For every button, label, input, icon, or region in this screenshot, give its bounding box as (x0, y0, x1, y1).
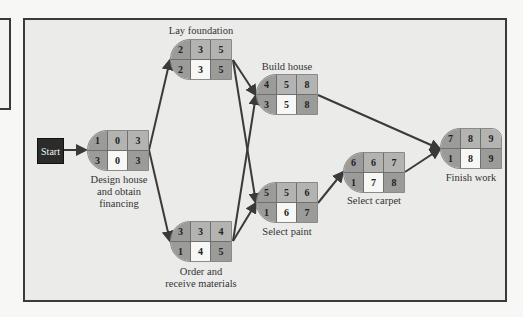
node-lf-cell: 5 (211, 60, 231, 80)
node-ls-cell: 4 (191, 242, 211, 262)
node-label-order-materials: Order and receive materials (156, 266, 246, 290)
node-build-house: 4 5 8 3 5 8 (256, 74, 318, 115)
node-finish-work: 7 8 9 1 8 9 (440, 128, 502, 169)
label-line: receive materials (156, 278, 246, 290)
edge-build-finish (318, 95, 440, 149)
node-duration-cell: 6 (364, 153, 384, 173)
start-node: Start (37, 138, 64, 164)
node-duration-cell: 3 (191, 222, 211, 242)
edge-order-build (233, 95, 256, 241)
node-ls-cell: 3 (191, 60, 211, 80)
node-ef-cell: 5 (211, 40, 231, 60)
node-ef-cell: 9 (481, 129, 501, 149)
edge-design-foundation (149, 60, 170, 150)
edge-carpet-finish (405, 149, 440, 172)
label-line: Order and (156, 266, 246, 278)
node-lf-cell: 3 (128, 151, 148, 171)
node-label-select-carpet: Select carpet (337, 195, 411, 207)
node-duration-cell: 5 (277, 183, 297, 203)
node-ls-cell: 8 (461, 149, 481, 169)
node-duration-cell: 0 (108, 131, 128, 151)
node-ef-cell: 6 (297, 183, 317, 203)
node-lf-cell: 5 (211, 242, 231, 262)
node-ls-cell: 7 (364, 173, 384, 193)
node-duration-cell: 3 (191, 40, 211, 60)
node-label-finish-work: Finish work (434, 172, 508, 184)
node-design-house: 1 0 3 3 0 3 (87, 130, 149, 171)
label-line: Design house (83, 174, 155, 186)
node-lf-cell: 9 (481, 149, 501, 169)
node-label-build-house: Build house (250, 61, 324, 73)
node-ef-cell: 3 (128, 131, 148, 151)
node-ls-cell: 0 (108, 151, 128, 171)
node-select-carpet: 6 6 7 1 7 8 (343, 152, 405, 193)
node-ls-cell: 5 (277, 95, 297, 115)
node-label-select-paint: Select paint (250, 226, 324, 238)
node-ef-cell: 7 (384, 153, 404, 173)
node-duration-cell: 5 (277, 75, 297, 95)
label-line: financing (83, 198, 155, 210)
node-duration-cell: 8 (461, 129, 481, 149)
node-lf-cell: 8 (384, 173, 404, 193)
node-select-paint: 5 5 6 1 6 7 (256, 182, 318, 223)
node-ef-cell: 4 (211, 222, 231, 242)
node-ls-cell: 6 (277, 203, 297, 223)
node-ef-cell: 8 (297, 75, 317, 95)
node-order-materials: 3 3 4 1 4 5 (170, 221, 232, 262)
node-lf-cell: 8 (297, 95, 317, 115)
edge-foundation-paint (233, 60, 256, 203)
node-label-lay-foundation: Lay foundation (160, 25, 242, 37)
label-line: and obtain (83, 186, 155, 198)
node-label-design-house: Design house and obtain financing (83, 174, 155, 210)
node-lf-cell: 7 (297, 203, 317, 223)
node-lay-foundation: 2 3 5 2 3 5 (170, 39, 232, 80)
start-label: Start (41, 146, 60, 157)
